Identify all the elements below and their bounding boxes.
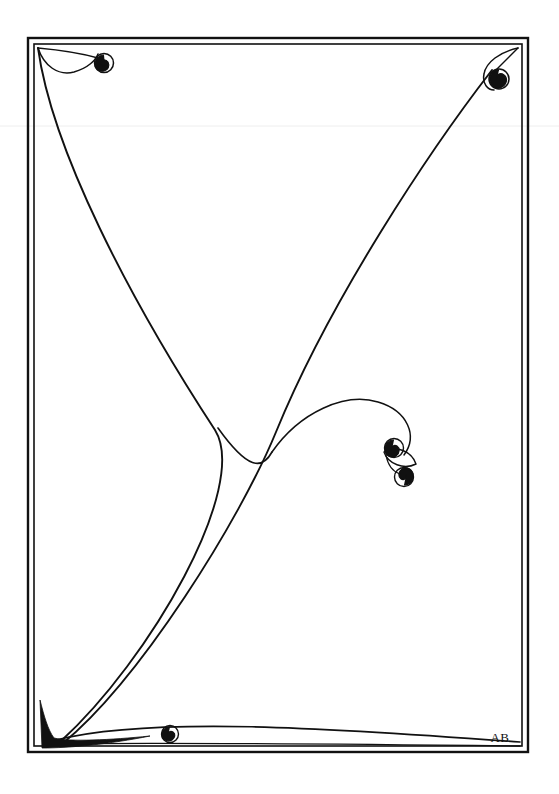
- decorative-frame-illustration: AB: [0, 0, 559, 794]
- artwork-canvas: AB: [0, 0, 559, 794]
- paper-background: [0, 0, 559, 794]
- artist-monogram: AB: [490, 730, 509, 745]
